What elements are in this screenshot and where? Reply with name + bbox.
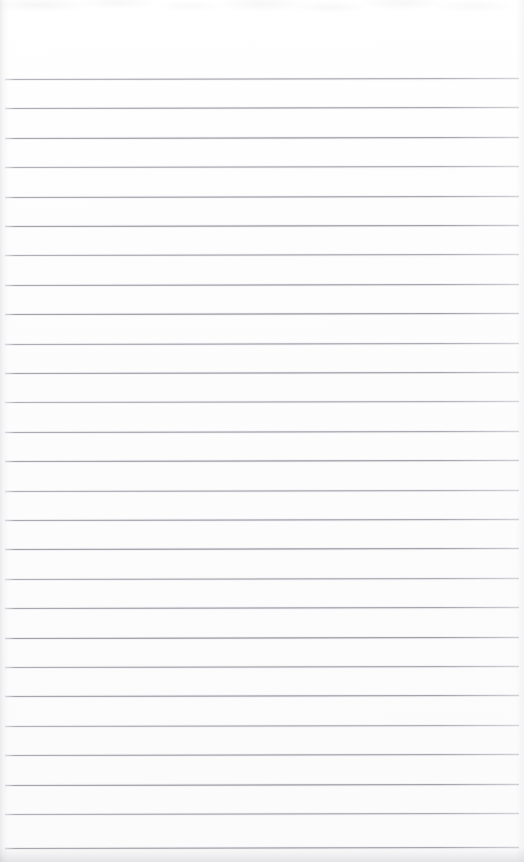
rule-line [5,225,519,227]
rule-line [5,166,519,168]
rule-line [5,460,519,462]
rule-line [5,284,519,286]
rule-line [5,78,519,80]
rule-line [5,196,519,198]
rule-line [5,725,519,727]
rule-line [5,695,519,697]
rule-line [5,548,519,550]
rule-line [5,401,519,403]
rule-line [5,637,519,639]
rule-line [5,607,519,609]
rule-line [5,490,519,492]
rule-line [5,754,519,756]
rule-line [5,137,519,139]
rule-line [5,107,519,109]
rule-line [5,784,519,786]
rule-line [5,578,519,580]
rule-line [5,519,519,521]
rule-line [5,313,519,315]
rule-line [5,431,519,433]
rule-line [5,343,519,345]
ruled-lines-layer [0,0,524,862]
rule-line [5,666,519,668]
scanned-page [0,0,524,862]
rule-line [5,372,519,374]
rule-line [5,847,519,849]
rule-line [5,254,519,256]
rule-line [5,813,519,815]
